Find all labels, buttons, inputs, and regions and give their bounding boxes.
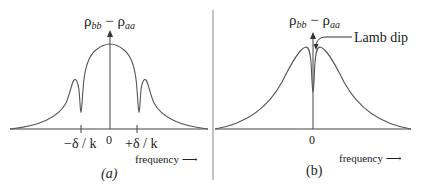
lamb-dip-figure: ρbb − ρaa −δ / k 0 +δ / k frequency ⟶ (a… bbox=[0, 0, 421, 190]
panel-caption-a: (a) bbox=[101, 166, 118, 182]
lamb-dip-label: Lamb dip bbox=[354, 30, 408, 45]
panel-caption-b: (b) bbox=[306, 163, 323, 179]
x-label-a: frequency ⟶ bbox=[135, 153, 198, 165]
y-axis-arrow-icon-b bbox=[310, 32, 316, 39]
y-label-a: ρbb − ρaa bbox=[84, 13, 135, 31]
y-label-b: ρbb − ρaa bbox=[289, 12, 340, 30]
x-label-b: frequency ⟶ bbox=[339, 152, 402, 164]
panel-b: ρbb − ρaa Lamb dip 0 frequency ⟶ (b) bbox=[215, 12, 411, 179]
panel-a: ρbb − ρaa −δ / k 0 +δ / k frequency ⟶ (a… bbox=[10, 13, 208, 182]
y-axis-arrow-icon bbox=[107, 30, 113, 37]
zero-label-a: 0 bbox=[106, 133, 112, 147]
curve-a bbox=[10, 44, 208, 129]
tick-label-minus: −δ / k bbox=[64, 136, 96, 151]
tick-label-plus: +δ / k bbox=[125, 136, 157, 151]
lamb-dip-leader bbox=[316, 37, 352, 45]
zero-label-b: 0 bbox=[309, 133, 315, 147]
